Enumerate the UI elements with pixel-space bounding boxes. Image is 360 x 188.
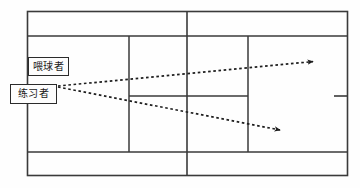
practicer-label: 练习者 (10, 84, 57, 104)
ball-feeder-label-text: 喂球者 (33, 62, 65, 72)
tennis-court-diagram: 喂球者 练习者 (0, 0, 360, 188)
practicer-label-text: 练习者 (18, 89, 50, 99)
ball-feeder-label: 喂球者 (28, 57, 69, 76)
